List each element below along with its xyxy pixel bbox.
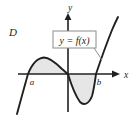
figure-panel: y = f(x) D x y a b	[0, 0, 135, 120]
x-axis-label: x	[123, 70, 129, 80]
x-intercept-label-a: a	[30, 77, 35, 87]
y-axis-label: y	[67, 3, 73, 13]
callout-leader-line	[94, 48, 102, 60]
function-graph: y = f(x) D x y a b	[0, 0, 135, 120]
curve-label: y = f(x)	[58, 35, 90, 47]
y-axis-arrow-icon	[65, 13, 72, 20]
x-intercept-label-b: b	[97, 77, 102, 87]
x-axis-arrow-icon	[112, 71, 120, 78]
shaded-region-positive	[28, 58, 68, 74]
panel-label: D	[8, 26, 17, 38]
